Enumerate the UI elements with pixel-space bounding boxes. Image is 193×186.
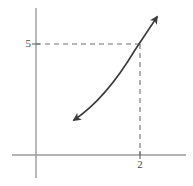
- x-axis-tick-label-2: 2: [134, 159, 146, 170]
- y-axis-tick-label-5: 5: [19, 38, 31, 49]
- graph-figure: [0, 0, 193, 186]
- figure-background: [0, 0, 193, 186]
